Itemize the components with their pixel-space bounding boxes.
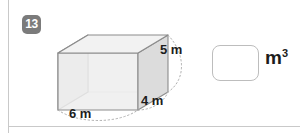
page-rule-left [8,0,9,133]
answer-input[interactable] [212,45,259,81]
prism-face-front [58,53,138,110]
unit-exponent: 3 [282,47,288,59]
unit-label: m3 [265,48,288,67]
unit-base: m [265,47,282,68]
problem-number-badge: 13 [22,15,41,34]
dimension-label-height: 5 m [160,42,182,57]
rectangular-prism-figure [40,6,190,128]
dimension-label-depth: 4 m [141,93,163,108]
dimension-label-width: 6 m [69,106,91,121]
worksheet-page: 13 [0,0,300,133]
